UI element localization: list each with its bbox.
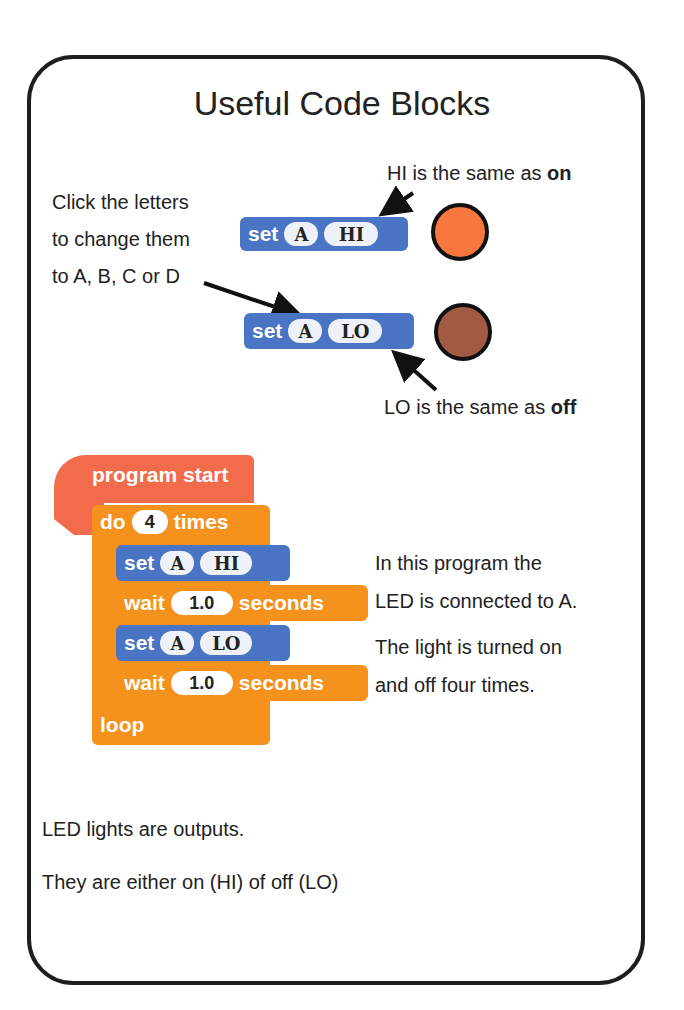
block-label: set bbox=[124, 551, 154, 575]
pin-selector[interactable]: A bbox=[160, 551, 194, 575]
block-label: set bbox=[248, 222, 278, 246]
wait-value-input[interactable]: 1.0 bbox=[171, 591, 233, 615]
block-label: wait bbox=[124, 671, 165, 695]
loop-block[interactable]: loop bbox=[92, 706, 270, 744]
repeat-times-label: times bbox=[174, 510, 229, 534]
program-description: In this program the LED is connected to … bbox=[375, 544, 577, 704]
state-selector[interactable]: LO bbox=[328, 319, 382, 343]
lo-note-text: LO is the same as bbox=[384, 396, 551, 418]
footer-line-1: LED lights are outputs. bbox=[42, 818, 244, 841]
set-block-hi[interactable]: set A HI bbox=[240, 217, 408, 251]
desc-line: and off four times. bbox=[375, 666, 577, 704]
pin-selector[interactable]: A bbox=[288, 319, 322, 343]
footer-line-2: They are either on (HI) of off (LO) bbox=[42, 871, 338, 894]
block-label: set bbox=[252, 319, 282, 343]
wait-unit-label: seconds bbox=[239, 591, 324, 615]
wait-unit-label: seconds bbox=[239, 671, 324, 695]
desc-line: LED is connected to A. bbox=[375, 582, 577, 620]
step-wait-1[interactable]: wait 1.0 seconds bbox=[116, 585, 368, 621]
desc-line: The light is turned on bbox=[375, 628, 577, 666]
wait-value-input[interactable]: 1.0 bbox=[171, 671, 233, 695]
state-selector[interactable]: HI bbox=[200, 551, 252, 575]
repeat-count-input[interactable]: 4 bbox=[132, 510, 168, 534]
lo-note: LO is the same as off bbox=[384, 396, 576, 419]
block-label: set bbox=[124, 631, 154, 655]
step-set-lo[interactable]: set A LO bbox=[116, 625, 290, 661]
led-on-icon bbox=[431, 203, 489, 261]
state-selector[interactable]: HI bbox=[324, 222, 378, 246]
lo-note-bold: off bbox=[551, 396, 577, 418]
repeat-do-label: do bbox=[100, 510, 126, 534]
desc-line: In this program the bbox=[375, 544, 577, 582]
program-start-label: program start bbox=[92, 463, 229, 487]
loop-label: loop bbox=[100, 713, 144, 737]
pin-selector[interactable]: A bbox=[160, 631, 194, 655]
set-block-lo[interactable]: set A LO bbox=[244, 313, 414, 349]
step-wait-2[interactable]: wait 1.0 seconds bbox=[116, 665, 368, 701]
block-label: wait bbox=[124, 591, 165, 615]
repeat-header: do 4 times bbox=[100, 510, 229, 534]
pin-selector[interactable]: A bbox=[284, 222, 318, 246]
step-set-hi[interactable]: set A HI bbox=[116, 545, 290, 581]
state-selector[interactable]: LO bbox=[200, 631, 252, 655]
led-off-icon bbox=[434, 303, 492, 361]
